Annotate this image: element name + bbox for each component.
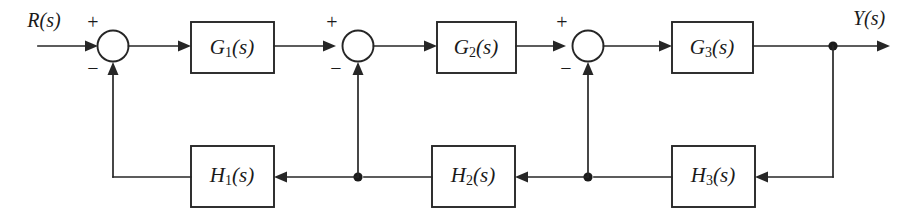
arrowhead-sum3-g3 [659, 41, 672, 52]
summing-junction-3 [573, 31, 604, 62]
arrowhead-h1-input [274, 172, 287, 183]
arrowhead-sum3-feedback [583, 62, 594, 75]
arrowhead-output [877, 41, 890, 52]
sum2-plus-sign: + [326, 11, 337, 33]
arrowhead-g2-sum3 [553, 41, 566, 52]
input-label-rs: R(s) [26, 9, 61, 32]
block-h2-label: H2(s) [450, 163, 495, 188]
arrowhead-h3-input [755, 172, 768, 183]
block-h3-label: H3(s) [690, 163, 735, 188]
arrowhead-h2-input [515, 172, 528, 183]
sum1-minus-sign: − [87, 57, 98, 79]
summing-junction-2 [343, 31, 374, 62]
summing-junction-1 [98, 31, 129, 62]
block-diagram-canvas: R(s) + − G1(s) + − G2(s) [0, 0, 923, 213]
output-label-ys: Y(s) [853, 7, 886, 30]
sum1-plus-sign: + [87, 11, 98, 33]
arrowhead-sum2-g2 [424, 41, 437, 52]
block-diagram-figure: R(s) + − G1(s) + − G2(s) [0, 0, 923, 213]
sum3-minus-sign: − [560, 57, 571, 79]
arrowhead-sum1-feedback [108, 62, 119, 75]
block-g1-label: G1(s) [210, 35, 254, 60]
arrowhead-g1-sum2 [323, 41, 336, 52]
arrowhead-sum1-g1 [178, 41, 191, 52]
arrowhead-input-sum1 [85, 41, 98, 52]
sum3-plus-sign: + [556, 11, 567, 33]
block-h1-label: H1(s) [209, 163, 254, 188]
sum2-minus-sign: − [330, 57, 341, 79]
block-g2-label: G2(s) [454, 35, 498, 60]
block-g3-label: G3(s) [690, 35, 734, 60]
arrowhead-sum2-feedback [353, 62, 364, 75]
